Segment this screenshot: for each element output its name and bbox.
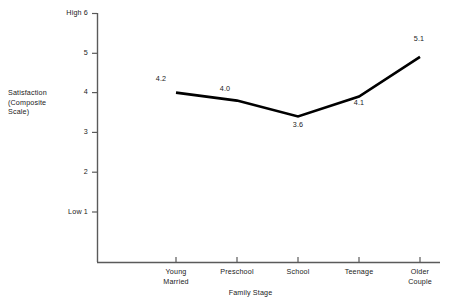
y-axis-ticks xyxy=(92,14,97,213)
x-tick-label-older-couple-line-2: Couple xyxy=(383,277,451,287)
x-tick-label-young-married-line-2: Married xyxy=(139,277,213,287)
data-label-older-couple: 5.1 xyxy=(404,35,434,43)
x-axis-title: Family Stage xyxy=(0,288,451,297)
x-tick-label-older-couple-line-1: Older xyxy=(383,267,451,277)
x-tick-label-older-couple: Older Couple xyxy=(383,267,451,286)
chart-canvas xyxy=(0,0,451,308)
data-label-young-married: 4.2 xyxy=(146,75,176,83)
data-label-preschool: 4.0 xyxy=(210,85,240,93)
x-axis-title-text: Family Stage xyxy=(229,288,273,297)
data-label-teenage: 4.1 xyxy=(344,99,374,107)
satisfaction-family-stage-chart: Satisfaction (Composite Scale) High 6 5 … xyxy=(0,0,451,308)
data-label-school: 3.6 xyxy=(283,121,313,129)
